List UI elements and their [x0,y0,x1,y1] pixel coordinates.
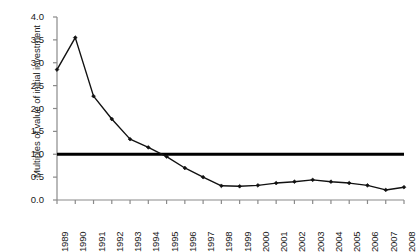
x-axis-tick-label: 1989 [59,232,70,252]
x-axis-tick-label: 1998 [223,232,234,252]
data-point-marker [293,180,297,184]
chart-container: Multiples of value of initial investment… [0,0,418,252]
x-axis-tick-label: 1995 [169,232,180,252]
x-axis-tick-label: 2008 [406,232,417,252]
x-axis-tick-label: 1999 [242,232,253,252]
x-axis-tick-label: 1992 [114,232,125,252]
x-axis-tick-label: 2001 [278,232,289,252]
data-point-marker [402,185,406,189]
x-axis-tick-label: 1993 [132,232,143,252]
data-line [57,38,404,190]
x-axis-tick-label: 2002 [296,232,307,252]
data-point-marker [311,178,315,182]
x-axis-tick-label: 1991 [96,232,107,252]
x-axis-tick-label: 2005 [351,232,362,252]
x-axis-tick-label: 2000 [260,232,271,252]
x-axis-tick-label: 2004 [333,232,344,252]
x-axis-tick-label: 1997 [205,232,216,252]
x-axis-tick-label: 2003 [315,232,326,252]
x-axis-tick-label: 1994 [150,232,161,252]
data-point-marker [384,188,388,192]
x-axis-tick-label: 1990 [77,232,88,252]
x-axis-tick-label: 2007 [388,232,399,252]
plot-area [0,0,418,252]
data-point-marker [274,181,278,185]
data-point-marker [238,184,242,188]
x-axis-tick-label: 2006 [369,232,380,252]
data-point-marker [366,183,370,187]
data-point-marker [347,181,351,185]
data-point-marker [329,180,333,184]
data-point-marker [256,183,260,187]
x-axis-tick-label: 1996 [187,232,198,252]
